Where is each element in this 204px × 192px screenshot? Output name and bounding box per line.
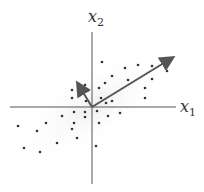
x1-axis-label: x1 (180, 97, 196, 119)
data-point (71, 89, 74, 92)
data-point (84, 116, 87, 119)
data-point (73, 111, 76, 114)
data-point (127, 79, 130, 82)
data-point (17, 125, 20, 128)
pca-diagram: x2 x1 (0, 0, 204, 192)
data-point (111, 100, 114, 103)
data-point (98, 122, 101, 125)
data-point (166, 70, 169, 73)
data-point (39, 151, 42, 154)
data-point (98, 87, 101, 90)
data-point (95, 145, 98, 148)
data-point (56, 142, 59, 145)
data-point (144, 97, 147, 100)
data-point (104, 82, 107, 85)
data-point (36, 130, 39, 133)
data-point (111, 75, 114, 78)
data-point (100, 97, 103, 100)
data-point (137, 64, 140, 67)
data-point (71, 97, 74, 100)
data-point (61, 115, 64, 118)
data-point (151, 78, 154, 81)
data-point (45, 122, 48, 125)
data-point (105, 102, 108, 105)
data-point (144, 87, 147, 90)
data-point (119, 112, 122, 115)
data-point (107, 115, 110, 118)
x2-axis-label: x2 (88, 7, 104, 29)
data-point (73, 122, 76, 125)
data-point (151, 65, 154, 68)
data-point (96, 110, 99, 113)
data-point (84, 111, 87, 114)
data-point (23, 147, 26, 150)
data-point (101, 61, 104, 64)
data-point (71, 128, 74, 131)
data-point (84, 84, 87, 87)
data-point (124, 67, 127, 70)
data-point (76, 137, 79, 140)
